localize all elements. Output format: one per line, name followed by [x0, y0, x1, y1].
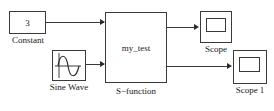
arrowhead-scope1-input — [227, 63, 232, 69]
scope1-block[interactable] — [233, 50, 267, 84]
sine-wave-icon — [53, 51, 85, 80]
scope1-screen-icon — [239, 57, 260, 72]
constant-block-label: Constant — [0, 35, 56, 45]
sfunction-block[interactable]: my_test — [105, 12, 167, 83]
sine-wave-block[interactable] — [52, 50, 86, 81]
sine-wave-block-label: Sine Wave — [40, 82, 98, 92]
wire-constant-to-sfunction — [46, 22, 104, 23]
constant-value: 3 — [10, 18, 45, 28]
arrowhead-scope-input — [194, 24, 199, 30]
scope-screen-icon — [206, 18, 226, 32]
sfunction-block-label: S−function — [98, 86, 174, 96]
scope1-block-label: Scope 1 — [222, 85, 274, 95]
block-diagram-canvas: 3 Constant Sine Wave my_test S−function … — [0, 0, 274, 111]
scope-block[interactable] — [200, 11, 232, 43]
wire-sfunction-to-scope1 — [167, 66, 229, 67]
sfunction-name: my_test — [106, 43, 166, 53]
wire-sfunction-to-scope — [167, 27, 196, 28]
constant-block[interactable]: 3 — [9, 11, 46, 34]
